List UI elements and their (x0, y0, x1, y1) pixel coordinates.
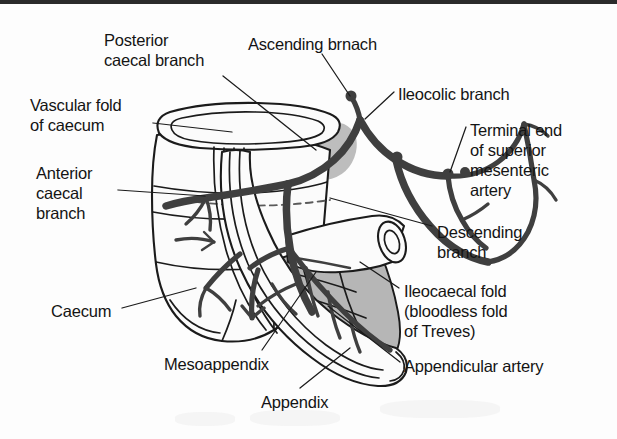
label-appendix: Appendix (261, 392, 328, 412)
label-posterior-caecal-branch: Posterior caecal branch (104, 30, 204, 70)
label-descending-branch: Descending branch (437, 222, 522, 262)
label-mesoappendix: Mesoappendix (164, 354, 269, 374)
label-ileocolic-branch: Ileocolic branch (398, 84, 509, 104)
leader-ileocolic-branch (365, 92, 394, 119)
anatomy-figure: .organ { fill: #fbfbfb; stroke: #1b1b1b;… (0, 0, 617, 439)
label-ascending-branch: Ascending brnach (248, 34, 377, 54)
label-ileocaecal-fold: Ileocaecal fold (bloodless fold of Treve… (404, 281, 507, 341)
leader-terminal-end-sma (450, 127, 466, 172)
label-appendicular-artery: Appendicular artery (404, 356, 543, 376)
label-vascular-fold-of-caecum: Vascular fold of caecum (30, 95, 122, 135)
label-caecum: Caecum (51, 301, 111, 321)
label-anterior-caecal-branch: Anterior caecal branch (36, 163, 92, 223)
leader-ascending-branch (322, 54, 350, 96)
label-terminal-end-sma: Terminal end of superior mesenteric arte… (470, 120, 562, 200)
